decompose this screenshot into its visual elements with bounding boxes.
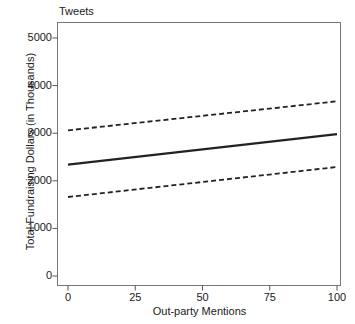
plot-frame: [58, 23, 341, 286]
series-line-2: [68, 167, 337, 197]
y-tick-marks: [53, 38, 58, 276]
chart-figure: Tweets Total Fundraising Dollars (in Tho…: [0, 0, 355, 324]
x-tick-marks: [68, 286, 337, 291]
series-line-0: [68, 134, 337, 164]
data-series-group: [68, 101, 337, 197]
series-line-1: [68, 101, 337, 130]
plot-area: [0, 0, 355, 324]
